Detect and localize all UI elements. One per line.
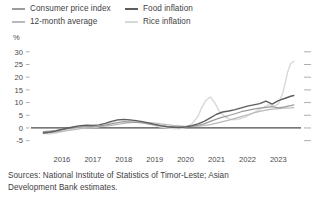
x-tick-label: 2017: [84, 155, 101, 164]
x-tick-label: 2020: [177, 155, 194, 164]
x-tick-label: 2022: [239, 155, 256, 164]
y-tick-label: 25: [15, 60, 23, 69]
y-tick-label: 30: [15, 48, 23, 57]
x-tick-label: 2019: [146, 155, 163, 164]
series-line: [43, 61, 293, 134]
source-note-line-1: Sources: National Institute of Statistic…: [8, 170, 316, 182]
x-tick-label: 2023: [270, 155, 287, 164]
y-axis-ticks: -5051015202530: [15, 48, 30, 146]
source-note-line-2: Development Bank estimates.: [8, 182, 316, 194]
x-tick-label: 2018: [115, 155, 132, 164]
x-tick-label: 2016: [53, 155, 70, 164]
x-tick-label: 2021: [208, 155, 225, 164]
y-tick-label: 10: [15, 98, 23, 107]
x-axis-ticks: 20162017201820192020202120222023: [53, 155, 286, 164]
y-tick-label: 5: [19, 111, 23, 120]
source-note: Sources: National Institute of Statistic…: [8, 170, 316, 193]
data-series-group: [43, 61, 293, 134]
y-tick-label: 0: [19, 124, 23, 133]
y-tick-label: -5: [16, 136, 23, 145]
y-tick-label: 20: [15, 73, 23, 82]
right-axis-ticks: [304, 52, 311, 141]
inflation-chart-figure: Consumer price indexFood inflation12-mon…: [0, 0, 322, 199]
y-tick-label: 15: [15, 86, 23, 95]
